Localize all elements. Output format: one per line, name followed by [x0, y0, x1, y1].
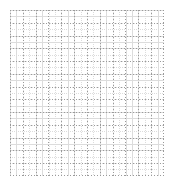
figure-canvas [0, 0, 173, 184]
panel-border-top [10, 10, 164, 11]
major-horizontal-gridlines [10, 10, 164, 176]
plot-grid-panel[interactable] [10, 10, 164, 176]
panel-border-left [10, 10, 11, 176]
panel-border-bottom [10, 175, 164, 176]
panel-border-right [163, 10, 164, 176]
